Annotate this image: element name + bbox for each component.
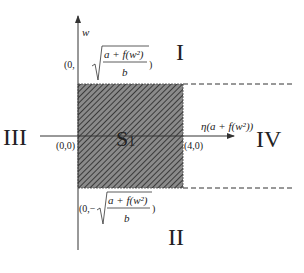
bottom-point-suffix: ) — [152, 203, 155, 215]
horizontal-axis-label: η(a + f(w²)) — [201, 120, 254, 133]
diagram-canvas: w η(a + f(w²)) S1 (0,0) (4,0) (0, a + f(… — [0, 0, 304, 273]
quadrant-label-ii: II — [168, 224, 184, 250]
right-point-label: (4,0) — [184, 140, 203, 152]
quadrant-label-i: I — [176, 39, 184, 65]
region-label-subscript: 1 — [128, 134, 135, 149]
bottom-numerator: a + f(w²) — [108, 194, 148, 207]
bottom-point-label: (0,− a + f(w²) b ) — [79, 192, 155, 224]
top-point-label: (0, a + f(w²) b ) — [64, 46, 152, 80]
top-point-prefix: (0, — [64, 59, 75, 71]
bottom-denominator: b — [124, 212, 130, 224]
region-label-main: S — [116, 126, 128, 151]
quadrant-label-iv: IV — [256, 126, 282, 152]
vertical-axis-label: w — [82, 26, 90, 38]
quadrant-label-iii: III — [3, 124, 27, 150]
top-point-suffix: ) — [149, 59, 152, 71]
top-denominator: b — [122, 66, 128, 78]
top-numerator: a + f(w²) — [104, 48, 144, 61]
origin-point-label: (0,0) — [56, 140, 75, 152]
bottom-point-prefix: (0,− — [79, 203, 96, 215]
